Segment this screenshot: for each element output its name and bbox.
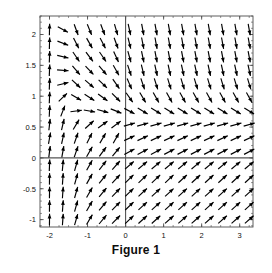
figure-container: -2-10123-1-0.500.511.52 Figure 1	[0, 0, 272, 273]
x-tick-label: -2	[46, 231, 53, 240]
x-tick-label: 1	[162, 231, 166, 240]
vector-field-plot: -2-10123-1-0.500.511.52	[0, 0, 272, 273]
y-tick-label: 0.5	[26, 123, 36, 132]
y-tick-label: -1	[29, 215, 36, 224]
y-tick-label: 2	[32, 30, 36, 39]
x-tick-label: 2	[200, 231, 204, 240]
x-tick-label: 0	[123, 231, 127, 240]
figure-caption: Figure 1	[0, 243, 272, 257]
x-tick-label: 3	[238, 231, 242, 240]
x-tick-label: -1	[84, 231, 91, 240]
y-tick-label: -0.5	[23, 185, 36, 194]
y-tick-label: 1.5	[26, 61, 36, 70]
y-tick-label: 0	[32, 154, 36, 163]
y-tick-label: 1	[32, 92, 36, 101]
